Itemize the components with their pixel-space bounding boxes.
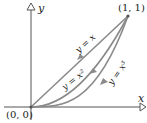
x-axis-label: x	[138, 93, 144, 104]
curve-y-equals-x	[31, 16, 128, 107]
end-point	[126, 14, 129, 17]
y-axis-arrow-icon	[27, 3, 35, 10]
arrow-icon-curve-x2	[89, 68, 97, 74]
diagram-canvas: y x (1, 1) (0, 0) y = x y = x² y = x³	[0, 0, 147, 123]
y-axis-label: y	[38, 3, 44, 14]
origin-point-label: (0, 0)	[6, 110, 33, 120]
end-point-label: (1, 1)	[118, 3, 145, 13]
